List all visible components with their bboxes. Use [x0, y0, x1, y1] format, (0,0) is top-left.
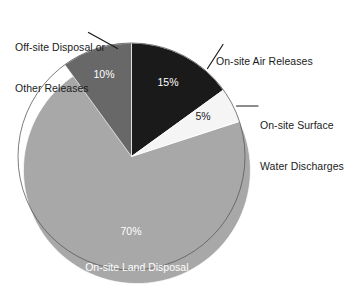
- slice-value-on-site-land-disposal: 70%: [56, 225, 206, 239]
- callout-offsite-line2: Other Releases: [15, 82, 105, 96]
- slice-label-on-site-land-disposal: 70% On-site Land Disposal: [56, 198, 206, 287]
- slice-value-on-site-surface-water-discharges: 5%: [186, 110, 220, 124]
- callout-label-on-site-air-releases: On-site Air Releases: [216, 28, 313, 96]
- callout-water-line2: Water Discharges: [260, 160, 344, 174]
- callout-water-line1: On-site Surface: [260, 119, 344, 133]
- callout-offsite-line1: Off-site Disposal or: [15, 41, 105, 55]
- slice-name-on-site-land-disposal: On-site Land Disposal: [85, 261, 188, 273]
- slice-value-on-site-air-releases: 15%: [148, 76, 188, 90]
- pie-chart-figure: Off-site Disposal or Other Releases On-s…: [0, 0, 359, 287]
- callout-air-line1: On-site Air Releases: [216, 55, 313, 69]
- callout-label-on-site-surface-water-discharges: On-site Surface Water Discharges: [260, 92, 344, 200]
- slice-value-off-site-disposal: 10%: [84, 68, 124, 82]
